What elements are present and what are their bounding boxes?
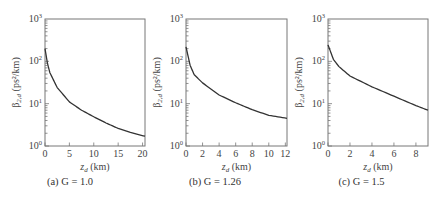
chart-b: 100101102103024681012zd (km)β2,d (ps²/km… <box>145 0 295 175</box>
x-tick-label: 0 <box>43 148 48 159</box>
y-tick-label: 101 <box>170 97 183 109</box>
x-tick-label: 6 <box>233 148 238 159</box>
chart-a: 10010110210305101520zd (km)β2,d (ps²/km) <box>0 0 150 175</box>
plot-frame <box>45 19 145 146</box>
x-axis-label: zd (km) <box>79 161 109 174</box>
plot-frame <box>328 19 428 146</box>
y-tick-label: 103 <box>170 12 183 24</box>
data-curve <box>186 47 287 119</box>
data-curve <box>45 49 145 137</box>
caption-a: (a) G = 1.0 <box>0 176 145 187</box>
x-tick-label: 2 <box>347 148 352 159</box>
panel-a: 10010110210305101520zd (km)β2,d (ps²/km)… <box>0 0 150 201</box>
x-tick-label: 15 <box>113 148 123 159</box>
caption-c: (c) G = 1.5 <box>285 176 438 187</box>
plot-frame <box>186 19 287 146</box>
y-tick-label: 102 <box>312 54 325 66</box>
x-tick-label: 8 <box>413 148 418 159</box>
x-tick-label: 12 <box>280 148 290 159</box>
y-tick-label: 101 <box>29 97 42 109</box>
y-tick-label: 101 <box>312 97 325 109</box>
x-tick-label: 2 <box>200 148 205 159</box>
y-tick-label: 103 <box>29 12 42 24</box>
x-axis-label: zd (km) <box>221 161 251 174</box>
panel-c: 10010110210302468zd (km)β2,d (ps²/km) (c… <box>290 0 443 201</box>
x-axis-label: zd (km) <box>362 161 392 174</box>
y-tick-label: 102 <box>170 54 183 66</box>
x-tick-label: 10 <box>89 148 99 159</box>
y-tick-label: 103 <box>312 12 325 24</box>
data-curve <box>328 45 428 110</box>
panel-b: 100101102103024681012zd (km)β2,d (ps²/km… <box>145 0 295 201</box>
y-tick-label: 100 <box>29 139 42 151</box>
caption-b: (b) G = 1.26 <box>140 176 290 187</box>
x-tick-label: 8 <box>250 148 255 159</box>
chart-c: 10010110210302468zd (km)β2,d (ps²/km) <box>290 0 443 175</box>
x-tick-label: 0 <box>184 148 189 159</box>
y-tick-label: 100 <box>170 139 183 151</box>
y-tick-label: 100 <box>312 139 325 151</box>
y-axis-label: β2,d (ps²/km) <box>293 57 306 107</box>
y-axis-label: β2,d (ps²/km) <box>10 57 23 107</box>
x-tick-label: 4 <box>369 148 374 159</box>
x-tick-label: 5 <box>67 148 72 159</box>
x-tick-label: 0 <box>326 148 331 159</box>
x-tick-label: 6 <box>391 148 396 159</box>
y-tick-label: 102 <box>29 54 42 66</box>
y-axis-label: β2,d (ps²/km) <box>151 57 164 107</box>
x-tick-label: 4 <box>217 148 222 159</box>
x-tick-label: 10 <box>264 148 274 159</box>
